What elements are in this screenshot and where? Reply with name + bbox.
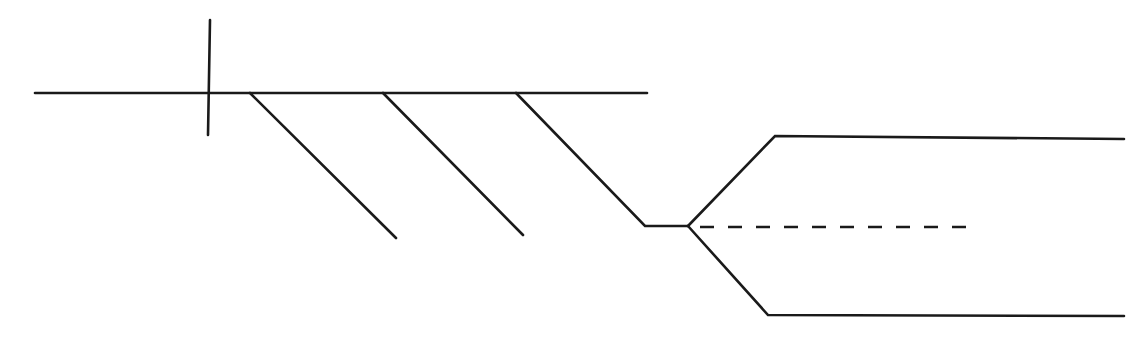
diagonal-line-3-to-fork: [516, 93, 688, 226]
vertical-tick-line: [208, 20, 210, 135]
diagonal-line-1: [250, 93, 396, 238]
diagonal-line-2: [383, 93, 523, 235]
lower-branch-line: [688, 226, 1124, 316]
upper-branch-line: [688, 136, 1124, 226]
line-diagram: [0, 0, 1144, 337]
